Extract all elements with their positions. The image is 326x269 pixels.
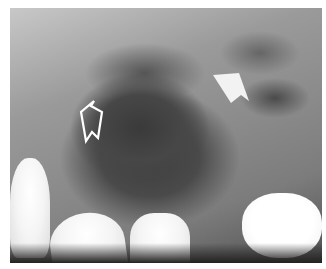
radiograph-frame <box>0 0 326 269</box>
outline-arrow-icon <box>76 98 108 144</box>
xray-image <box>10 8 322 263</box>
solid-arrow-icon <box>211 71 251 107</box>
lower-shadow <box>10 243 322 263</box>
